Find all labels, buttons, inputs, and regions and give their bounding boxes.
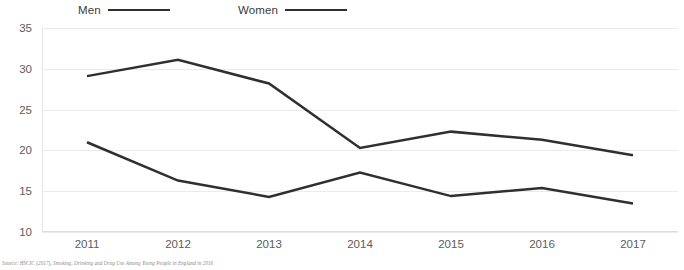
- series-layer: [42, 28, 678, 232]
- y-tick-20: 20: [0, 144, 32, 156]
- gridline-10: [42, 232, 678, 233]
- x-tick-2017: 2017: [620, 238, 646, 250]
- y-tick-35: 35: [0, 22, 32, 34]
- x-axis-line: [42, 231, 678, 232]
- x-tick-2014: 2014: [347, 238, 373, 250]
- y-tick-10: 10: [0, 226, 32, 238]
- y-tick-30: 30: [0, 63, 32, 75]
- x-tick-2013: 2013: [256, 238, 282, 250]
- legend-swatch-men-icon: [108, 9, 170, 12]
- chart-container: Men Women 35 30 25 20 15 10 2011 2012: [0, 0, 684, 270]
- legend-label-women: Women: [238, 4, 278, 16]
- y-tick-15: 15: [0, 185, 32, 197]
- source-note: Source: HSCIC (2017), Smoking, Drinking …: [2, 260, 213, 266]
- legend-item-women: Women: [238, 0, 347, 20]
- series-line-women: [87, 142, 633, 203]
- legend-swatch-women-icon: [285, 9, 347, 12]
- series-line-men: [87, 60, 633, 155]
- x-tick-2011: 2011: [75, 238, 100, 250]
- x-tick-2012: 2012: [165, 238, 191, 250]
- legend-item-men: Men: [78, 0, 170, 20]
- chart-legend: Men Women: [0, 0, 684, 20]
- plot-area: [42, 28, 678, 232]
- x-tick-2016: 2016: [529, 238, 555, 250]
- y-tick-25: 25: [0, 104, 32, 116]
- x-tick-2015: 2015: [438, 238, 464, 250]
- legend-label-men: Men: [78, 4, 101, 16]
